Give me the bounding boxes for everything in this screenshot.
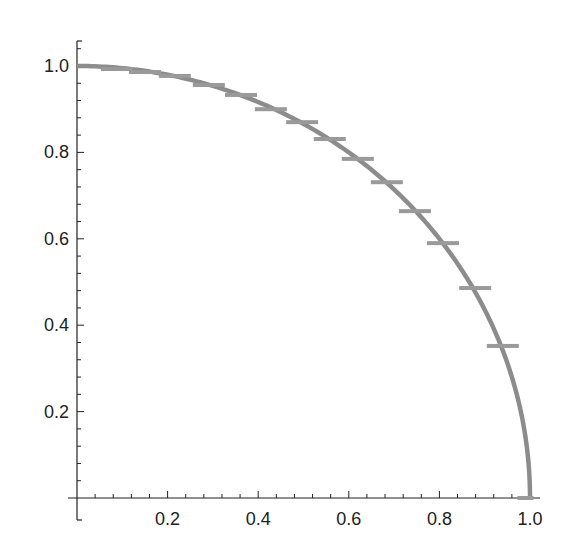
curve-path xyxy=(77,66,530,498)
dash-marker xyxy=(255,107,287,111)
x-tick-label: 0.6 xyxy=(336,509,361,529)
x-tick-label: 0.8 xyxy=(427,509,452,529)
dash-marker xyxy=(459,286,491,290)
dash-marker xyxy=(159,74,191,78)
dash-marker xyxy=(427,241,459,245)
quarter-circle-curve xyxy=(77,66,530,498)
y-axis: 0.20.40.60.81.0 xyxy=(44,41,84,520)
x-tick-label: 1.0 xyxy=(517,509,542,529)
dash-marker xyxy=(371,180,403,184)
y-tick-label: 0.4 xyxy=(44,315,69,335)
dash-marker xyxy=(314,137,346,141)
dash-marker xyxy=(101,67,133,71)
y-tick-label: 0.8 xyxy=(44,142,69,162)
dash-marker xyxy=(487,344,519,348)
dash-marker xyxy=(129,70,161,74)
y-tick-label: 0.2 xyxy=(44,402,69,422)
x-tick-label: 0.2 xyxy=(155,509,180,529)
dash-marker xyxy=(286,120,318,124)
dash-marker xyxy=(517,496,533,500)
dash-marker xyxy=(193,83,225,87)
plot-area: 0.20.40.60.81.0 0.20.40.60.81.0 xyxy=(0,0,586,559)
y-tick-label: 0.6 xyxy=(44,229,69,249)
chart: 0.20.40.60.81.0 0.20.40.60.81.0 xyxy=(0,0,586,559)
x-tick-label: 0.4 xyxy=(246,509,271,529)
dash-marker xyxy=(399,209,431,213)
dash-marker xyxy=(342,157,374,161)
y-tick-label: 1.0 xyxy=(44,56,69,76)
x-axis: 0.20.40.60.81.0 xyxy=(68,491,543,529)
dash-marker xyxy=(225,93,257,97)
